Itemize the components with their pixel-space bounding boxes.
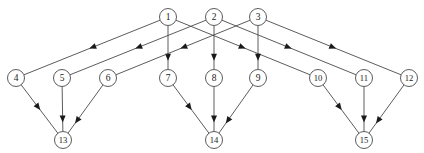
arrowhead-8-to-14 [211, 116, 217, 123]
arrowhead-5-to-13 [60, 115, 66, 122]
nodes-group: 123456789101112131415 [8, 9, 418, 149]
arrowhead-6-to-13 [75, 116, 82, 123]
node-label-14: 14 [210, 135, 219, 145]
node-11[interactable]: 11 [356, 70, 373, 87]
node-10[interactable]: 10 [310, 70, 327, 87]
node-9[interactable]: 9 [250, 70, 267, 87]
node-13[interactable]: 13 [55, 132, 72, 149]
graph-canvas: 123456789101112131415 [0, 0, 424, 153]
arrowhead-12-to-15 [376, 116, 383, 123]
arrowhead-9-to-14 [226, 116, 233, 123]
node-label-7: 7 [166, 73, 171, 83]
arrowhead-11-to-15 [361, 116, 367, 123]
arrowhead-3-to-9 [255, 54, 261, 61]
node-label-5: 5 [60, 73, 65, 83]
arrowhead-2-to-11 [284, 43, 292, 49]
node-7[interactable]: 7 [160, 70, 177, 87]
node-label-3: 3 [256, 12, 261, 22]
node-label-8: 8 [212, 73, 217, 83]
node-label-11: 11 [360, 73, 368, 83]
arrowhead-2-to-5 [135, 43, 143, 49]
node-8[interactable]: 8 [206, 70, 223, 87]
edge-6-to-13 [68, 85, 103, 133]
node-4[interactable]: 4 [8, 70, 25, 87]
node-label-10: 10 [314, 73, 323, 83]
arrowhead-1-to-4 [89, 43, 97, 49]
edge-9-to-14 [219, 85, 253, 133]
graph-figure: 123456789101112131415 [0, 0, 424, 153]
arrowhead-10-to-15 [335, 103, 342, 110]
node-15[interactable]: 15 [356, 132, 373, 149]
node-5[interactable]: 5 [54, 70, 71, 87]
node-14[interactable]: 14 [206, 132, 223, 149]
node-2[interactable]: 2 [206, 9, 223, 26]
node-label-9: 9 [256, 73, 261, 83]
arrowhead-4-to-13 [34, 103, 41, 110]
node-12[interactable]: 12 [401, 70, 418, 87]
node-label-2: 2 [212, 12, 217, 22]
arrowhead-3-to-6 [180, 43, 188, 49]
arrowhead-7-to-14 [185, 103, 192, 110]
node-label-13: 13 [59, 135, 68, 145]
node-label-6: 6 [106, 73, 111, 83]
node-label-15: 15 [360, 135, 369, 145]
arrowhead-1-to-10 [238, 43, 246, 49]
edge-12-to-15 [369, 85, 404, 133]
node-6[interactable]: 6 [100, 70, 117, 87]
node-label-1: 1 [166, 12, 171, 22]
node-label-4: 4 [14, 73, 19, 83]
node-label-12: 12 [405, 73, 414, 83]
node-1[interactable]: 1 [160, 9, 177, 26]
arrowhead-2-to-8 [211, 54, 217, 61]
node-3[interactable]: 3 [250, 9, 267, 26]
arrowhead-3-to-12 [329, 43, 337, 49]
edge-5-to-13 [62, 87, 63, 132]
